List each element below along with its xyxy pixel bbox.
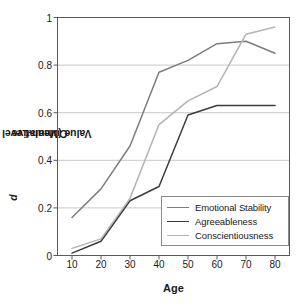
legend-swatch-conscientiousness <box>167 235 189 236</box>
legend-item-conscientiousness: Conscientiousness <box>162 228 288 242</box>
x-tick-label: 30 <box>124 259 135 270</box>
plot-area <box>0 0 304 308</box>
legend-item-agreeableness: Agreeableness <box>162 214 288 228</box>
x-tick-label: 80 <box>269 259 280 270</box>
legend-label-conscientiousness: Conscientiousness <box>195 230 273 241</box>
legend-swatch-emotional-stability <box>167 207 189 208</box>
x-tick-label: 60 <box>211 259 222 270</box>
legend-label-emotional-stability: Emotional Stability <box>195 202 271 213</box>
legend-label-agreeableness: Agreeableness <box>195 216 257 227</box>
x-tick-label: 20 <box>95 259 106 270</box>
legend-item-emotional-stability: Emotional Stability <box>162 200 288 214</box>
series-line-emotional-stability <box>72 41 275 217</box>
legend-swatch-agreeableness <box>167 221 189 222</box>
chart-figure: Cumulative d Value (Mean-Level Change) 0… <box>0 0 304 308</box>
x-axis-label: Age <box>57 282 290 294</box>
x-tick-label: 70 <box>240 259 251 270</box>
chart-legend: Emotional Stability Agreeableness Consci… <box>161 196 289 246</box>
x-tick-label: 10 <box>66 259 77 270</box>
x-tick-label: 50 <box>182 259 193 270</box>
x-tick-label: 40 <box>153 259 164 270</box>
